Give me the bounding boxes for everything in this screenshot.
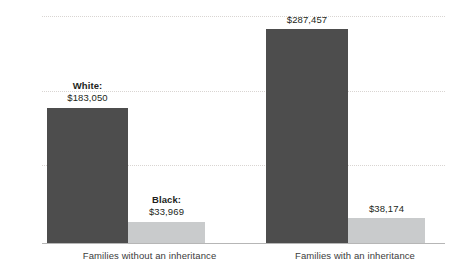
- gridline-300k: [42, 16, 445, 18]
- bar-label-black-with-inheritance: $38,174: [348, 203, 425, 215]
- value-label-white-with-inheritance: $287,457: [266, 14, 348, 26]
- bar-label-white-with-inheritance: $287,457: [266, 14, 348, 26]
- series-label-white: White:: [47, 80, 128, 92]
- value-label-white-without-inheritance: $183,050: [47, 92, 128, 104]
- value-label-black-without-inheritance: $33,969: [128, 206, 205, 218]
- category-label-without-inheritance: Families without an inheritance: [47, 250, 252, 261]
- category-label-with-inheritance: Families with an inheritance: [266, 250, 444, 261]
- bar-black-without-inheritance[interactable]: [128, 222, 205, 243]
- bar-black-with-inheritance[interactable]: [348, 218, 425, 243]
- x-axis-line: [42, 243, 445, 244]
- bar-chart: White: $183,050 Black: $33,969 $287,457 …: [0, 0, 472, 276]
- bar-label-white-without-inheritance: White: $183,050: [47, 80, 128, 104]
- value-label-black-with-inheritance: $38,174: [348, 203, 425, 215]
- bar-white-without-inheritance[interactable]: [47, 108, 128, 243]
- bar-white-with-inheritance[interactable]: [266, 29, 348, 243]
- bar-label-black-without-inheritance: Black: $33,969: [128, 194, 205, 218]
- series-label-black: Black:: [128, 194, 205, 206]
